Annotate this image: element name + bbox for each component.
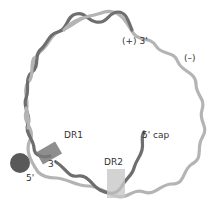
dr2-label: DR2 <box>104 158 123 167</box>
dr1-label: DR1 <box>64 131 83 140</box>
minus-5prime-label: 5' <box>26 174 34 183</box>
plus-strand-3prime-label: (+) 3' <box>122 37 148 46</box>
dr2-box <box>107 169 125 198</box>
polymerase-protein-icon <box>10 153 30 173</box>
cap-label: 5' cap <box>142 131 169 140</box>
minus-strand-label: (–) <box>184 54 196 63</box>
hbv-genome-diagram: (+) 3' (–) DR1 5' cap DR2 3' 5' <box>0 0 218 209</box>
minus-3prime-label: 3' <box>48 160 56 169</box>
plus-strand-bottom <box>56 132 144 193</box>
